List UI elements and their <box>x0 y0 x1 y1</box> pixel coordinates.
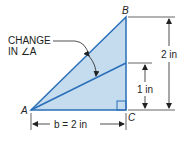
dim-label-base: b = 2 in <box>54 119 87 130</box>
triangle-diagram: B A C CHANGE IN ∠A 2 in 1 in b = 2 in <box>0 0 182 143</box>
annotation-line2: IN ∠A <box>8 46 37 57</box>
dim-label-1in: 1 in <box>137 84 153 95</box>
annotation-line1: CHANGE <box>8 35 51 46</box>
vertex-label-c: C <box>128 112 136 123</box>
triangle-abc <box>31 17 126 110</box>
annotation-leader <box>53 41 89 56</box>
vertex-label-b: B <box>122 5 129 16</box>
dim-label-2in: 2 in <box>161 49 177 60</box>
vertex-label-a: A <box>20 105 28 116</box>
